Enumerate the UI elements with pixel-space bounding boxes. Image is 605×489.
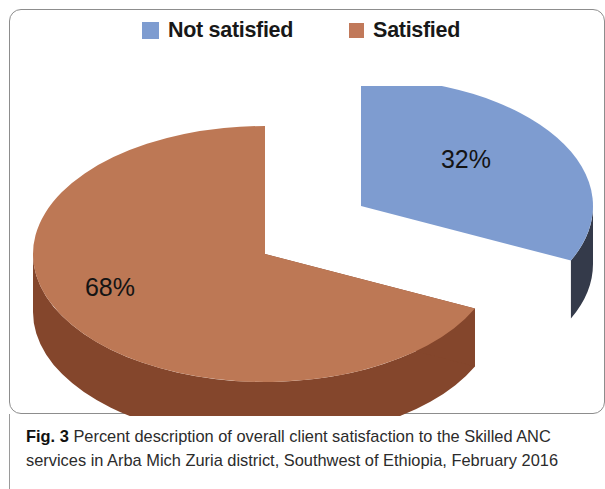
legend-item-satisfied[interactable]: Satisfied <box>349 20 460 42</box>
chart-legend: Not satisfied Satisfied <box>0 20 602 42</box>
pie-chart-svg: 68% 32% <box>0 86 602 416</box>
legend-swatch-satisfied-icon <box>349 23 364 38</box>
legend-label-not-satisfied: Not satisfied <box>168 20 293 42</box>
legend-swatch-not-satisfied-icon <box>142 22 159 39</box>
caption-left-rule <box>9 414 10 489</box>
pie-slice-not-satisfied-top <box>361 86 593 260</box>
figure-caption: Fig. 3 Percent description of overall cl… <box>26 424 588 472</box>
pie-slice-not-satisfied[interactable]: 32% <box>361 86 593 318</box>
pie-label-satisfied: 68% <box>85 273 135 301</box>
pie-chart: 68% 32% <box>0 86 602 416</box>
legend-item-not-satisfied[interactable]: Not satisfied <box>142 20 293 42</box>
pie-label-not-satisfied: 32% <box>441 145 491 173</box>
figure-caption-text: Percent description of overall client sa… <box>26 427 558 469</box>
figure-number: Fig. 3 <box>26 427 69 445</box>
legend-label-satisfied: Satisfied <box>373 20 460 42</box>
